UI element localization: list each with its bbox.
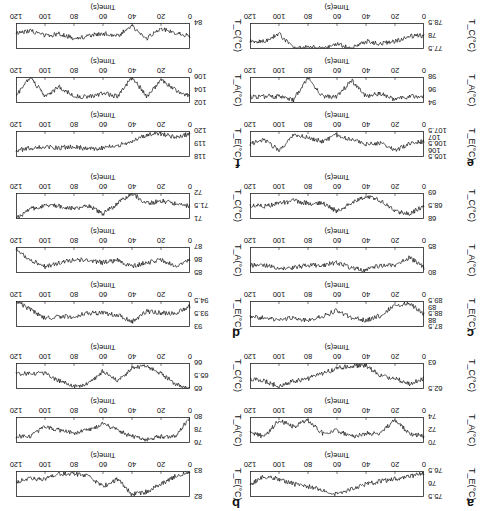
x-tick-label: 20 xyxy=(157,406,165,414)
y-tick-label: 120 xyxy=(194,128,207,135)
x-tick-label: 60 xyxy=(333,352,341,360)
y-tick-label: 75.5 xyxy=(428,494,443,501)
y-axis-label: T_A(°C) xyxy=(456,413,476,447)
x-tick-label: 100 xyxy=(273,460,286,468)
x-tick-label: 100 xyxy=(273,120,286,128)
x-tick-label: 80 xyxy=(304,182,312,190)
y-axis-label: T_E(°C) xyxy=(222,297,242,331)
x-tick-label: 60 xyxy=(333,120,341,128)
x-tick-label: 20 xyxy=(391,120,399,128)
y-tick-label: 86 xyxy=(194,257,202,264)
x-axis-label: Time(s) xyxy=(250,111,424,119)
x-tick-label: 80 xyxy=(304,460,312,468)
x-tick-label: 20 xyxy=(391,236,399,244)
y-tick-label: 93 xyxy=(194,324,202,331)
x-tick-label: 100 xyxy=(273,290,286,298)
subplot-ta: T_A(°C)767880020406080100120Time(s) xyxy=(16,417,190,443)
y-tick-label: 72 xyxy=(428,427,436,434)
x-tick-label: 0 xyxy=(188,352,192,360)
y-tick-label: 118 xyxy=(194,154,206,161)
x-tick-label: 20 xyxy=(391,66,399,74)
y-tick-label: 70 xyxy=(428,440,436,447)
panel-c: cT_E(°C)87.58888.58989.5020406080100120T… xyxy=(234,167,480,335)
x-tick-label: 120 xyxy=(10,460,23,468)
subplot-te: T_E(°C)118119120020406080100120Time(s) xyxy=(16,131,190,157)
y-tick-label: 71 xyxy=(194,216,202,223)
time-series-trace xyxy=(250,363,424,389)
x-tick-label: 40 xyxy=(128,236,136,244)
x-tick-label: 0 xyxy=(422,12,426,20)
x-tick-label: 60 xyxy=(333,12,341,20)
x-axis-label: Time(s) xyxy=(16,111,190,119)
y-tick-label: 96 xyxy=(428,87,436,94)
x-tick-label: 20 xyxy=(391,460,399,468)
y-tick-label: 104 xyxy=(194,87,207,94)
subplot-te: T_E(°C)105.5106106.5107107.5020406080100… xyxy=(250,131,424,157)
x-tick-label: 20 xyxy=(157,352,165,360)
x-tick-label: 60 xyxy=(99,182,107,190)
y-axis-label: T_C(°C) xyxy=(456,359,476,393)
y-tick-label: 76 xyxy=(194,440,202,447)
y-tick-label: 78.5 xyxy=(428,20,443,27)
y-tick-label: 78 xyxy=(194,427,202,434)
y-tick-label: 71.5 xyxy=(194,203,209,210)
x-tick-label: 80 xyxy=(304,352,312,360)
x-tick-label: 80 xyxy=(70,12,78,20)
panel-f: fT_E(°C)118119120020406080100120Time(s)T… xyxy=(0,0,246,165)
time-series-trace xyxy=(16,301,190,327)
x-tick-label: 40 xyxy=(362,12,370,20)
x-tick-label: 120 xyxy=(10,66,23,74)
x-tick-label: 120 xyxy=(10,236,23,244)
time-series-trace xyxy=(250,193,424,219)
time-series-trace xyxy=(250,301,424,327)
y-tick-label: 85 xyxy=(194,270,202,277)
y-tick-label: 76.5 xyxy=(428,468,443,475)
x-tick-label: 40 xyxy=(362,290,370,298)
y-tick-label: 63 xyxy=(428,360,436,367)
time-series-trace xyxy=(250,247,424,273)
subplot-te: T_E(°C)9393.594.5020406080100120Time(s) xyxy=(16,301,190,327)
y-tick-label: 68 xyxy=(428,216,436,223)
x-tick-label: 120 xyxy=(10,182,23,190)
x-tick-label: 80 xyxy=(70,66,78,74)
time-series-trace xyxy=(16,23,190,49)
time-series-trace xyxy=(250,471,424,497)
y-tick-label: 69 xyxy=(428,190,436,197)
y-axis-label: T_C(°C) xyxy=(222,19,242,53)
y-axis-label: T_A(°C) xyxy=(456,73,476,107)
y-tick-label: 102 xyxy=(194,100,207,107)
x-axis-label: Time(s) xyxy=(16,57,190,65)
y-tick-label: 119 xyxy=(194,141,206,148)
x-tick-label: 40 xyxy=(362,66,370,74)
y-tick-label: 66 xyxy=(194,360,202,367)
x-tick-label: 120 xyxy=(10,352,23,360)
x-tick-label: 40 xyxy=(128,460,136,468)
x-tick-label: 80 xyxy=(70,460,78,468)
x-axis-label: Time(s) xyxy=(16,227,190,235)
subplot-ta: T_A(°C)102104106020406080100120Time(s) xyxy=(16,77,190,103)
x-tick-label: 60 xyxy=(99,352,107,360)
y-axis-label: T_C(°C) xyxy=(222,359,242,393)
x-tick-label: 0 xyxy=(188,236,192,244)
x-tick-label: 120 xyxy=(10,12,23,20)
x-tick-label: 20 xyxy=(391,290,399,298)
y-axis-label: T_C(°C) xyxy=(456,19,476,53)
x-tick-label: 20 xyxy=(157,120,165,128)
y-tick-label: 107 xyxy=(428,134,441,141)
x-tick-label: 120 xyxy=(10,406,23,414)
subplot-tc: T_C(°C)6868.569020406080100120Time(s) xyxy=(250,193,424,219)
y-tick-label: 83 xyxy=(194,468,202,475)
panel-b: bT_E(°C)8283020406080100120Time(s)T_A(°C… xyxy=(0,337,246,505)
x-tick-label: 20 xyxy=(391,406,399,414)
x-tick-label: 80 xyxy=(70,290,78,298)
x-tick-label: 100 xyxy=(273,406,286,414)
x-axis-label: Time(s) xyxy=(250,227,424,235)
x-tick-label: 100 xyxy=(273,236,286,244)
time-series-trace xyxy=(250,417,424,443)
time-series-trace xyxy=(250,131,424,157)
x-tick-label: 40 xyxy=(128,12,136,20)
x-tick-label: 100 xyxy=(273,352,286,360)
y-tick-label: 80 xyxy=(428,270,436,277)
x-tick-label: 40 xyxy=(128,66,136,74)
